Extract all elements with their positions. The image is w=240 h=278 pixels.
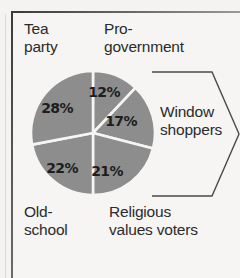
pie-slice-percent: 12%: [88, 84, 120, 100]
callout-religious-values-voters: Religious values voters: [109, 203, 198, 239]
pie-slice-percent: 17%: [105, 113, 137, 129]
pie-slice-percent: 21%: [91, 163, 123, 179]
callout-old-school: Old- school: [24, 203, 68, 239]
callout-pro-government: Pro- government: [104, 20, 184, 56]
pie-slice-percent: 28%: [41, 100, 73, 116]
callout-window-shoppers: Window shoppers: [160, 103, 222, 139]
callout-tea-party: Tea party: [24, 20, 57, 56]
pie-slice-percent: 22%: [46, 160, 78, 176]
pie-chart-figure: 12%17%21%22%28% Tea party Pro- governmen…: [0, 0, 240, 278]
